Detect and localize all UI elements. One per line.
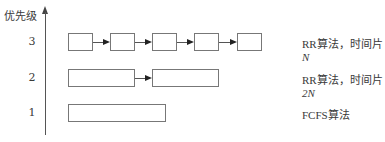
queue-box bbox=[68, 69, 135, 87]
queue-description-level-3: RR算法，时间片N bbox=[302, 35, 385, 63]
quantum-text: N bbox=[302, 51, 309, 63]
level-label-3: 3 bbox=[27, 35, 37, 48]
connector-line bbox=[219, 42, 230, 43]
queue-box bbox=[237, 33, 262, 51]
arrow-icon bbox=[145, 75, 152, 81]
arrow-icon bbox=[187, 39, 194, 45]
connector-line bbox=[177, 42, 187, 43]
y-axis-label: 优先级 bbox=[4, 7, 37, 23]
quantum-text: 2N bbox=[302, 87, 315, 99]
queue-box bbox=[194, 33, 219, 51]
arrow-icon bbox=[145, 39, 152, 45]
queue-description-level-1: FCFS算法 bbox=[302, 106, 350, 122]
connector-line bbox=[135, 78, 145, 79]
queue-description-level-2: RR算法，时间片2N bbox=[302, 71, 385, 99]
arrow-icon bbox=[103, 39, 110, 45]
connector-line bbox=[135, 42, 145, 43]
queue-box bbox=[68, 33, 93, 51]
algorithm-text: RR算法，时间片 bbox=[302, 74, 383, 86]
algorithm-text: FCFS算法 bbox=[302, 109, 350, 121]
connector-line bbox=[93, 42, 103, 43]
algorithm-text: RR算法，时间片 bbox=[302, 38, 383, 50]
level-label-2: 2 bbox=[27, 71, 37, 84]
level-label-1: 1 bbox=[27, 106, 37, 119]
queue-box bbox=[68, 104, 166, 122]
queue-box bbox=[152, 33, 177, 51]
queue-box bbox=[152, 69, 219, 87]
arrow-icon bbox=[230, 39, 237, 45]
queue-box bbox=[110, 33, 135, 51]
y-axis bbox=[45, 12, 46, 135]
